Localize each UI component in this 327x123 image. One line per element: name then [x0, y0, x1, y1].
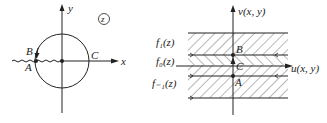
label-x: x — [120, 55, 126, 67]
label-f1: f₁(z) — [156, 36, 175, 49]
v-axis-arrow-icon — [231, 5, 236, 12]
point-a — [34, 59, 38, 63]
diagram-canvas: B A C x y z B C A v(x, y) u(x — [0, 0, 327, 123]
origin-point — [60, 59, 64, 63]
label-z: z — [100, 14, 105, 24]
label-b: B — [236, 43, 243, 55]
label-v-axis: v(x, y) — [238, 5, 266, 18]
label-y: y — [67, 2, 73, 14]
label-u-axis: u(x, y) — [291, 62, 319, 75]
label-c: C — [91, 49, 99, 61]
label-c: C — [236, 60, 244, 72]
w-plane-diagram: B C A v(x, y) u(x, y) f₁(z) f₀(z) f₋₁(z) — [152, 5, 319, 115]
label-a: A — [24, 61, 32, 73]
label-a: A — [234, 76, 242, 88]
label-b: B — [26, 45, 33, 57]
point-b — [231, 53, 235, 57]
label-f-1: f₋₁(z) — [152, 77, 177, 90]
y-axis-arrow-icon — [60, 4, 65, 11]
x-axis-arrow-icon — [111, 59, 119, 64]
z-plane-diagram: B A C x y z — [12, 2, 126, 113]
label-f0: f₀(z) — [156, 55, 175, 68]
